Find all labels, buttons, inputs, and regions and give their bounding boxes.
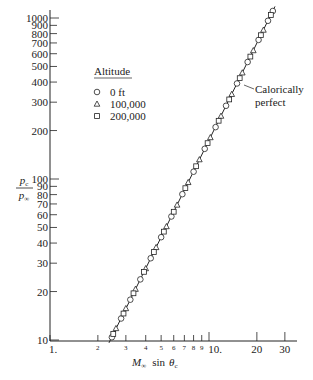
x-tick-label: 20 (251, 343, 263, 355)
square-marker (151, 250, 156, 255)
square-marker (121, 311, 126, 316)
legend-entry-label: 100,000 (110, 98, 146, 110)
square-marker (227, 97, 232, 102)
circle-marker (138, 277, 144, 283)
annotation-line-2: perfect (255, 96, 286, 108)
x-tick-label: 3 (124, 344, 128, 352)
circle-marker (234, 81, 240, 87)
circle-marker (148, 255, 154, 261)
triangle-marker (113, 325, 119, 330)
square-marker (194, 164, 199, 169)
triangle-marker (123, 305, 129, 310)
x-tick-label: 8 (192, 344, 196, 352)
circle-marker (128, 297, 134, 303)
y-tick-label: 400 (32, 76, 49, 88)
x-tick-label: 7 (183, 344, 187, 352)
y-axis-ticks: 1020304050607080901002003004005006007008… (26, 12, 59, 346)
legend-triangle-icon (94, 101, 100, 106)
square-marker (171, 209, 176, 214)
x-tick-label: 1. (49, 343, 58, 355)
legend: Altitude 0 ft100,000200,000 (94, 65, 146, 122)
legend-entry-label: 200,000 (110, 110, 146, 122)
circle-marker (202, 146, 208, 152)
triangle-marker (174, 202, 180, 207)
x-tick-label: 4 (144, 344, 148, 352)
chart: 1020304050607080901002003004005006007008… (0, 0, 313, 380)
y-tick-label: 500 (32, 60, 49, 72)
legend-circle-icon (94, 89, 100, 95)
square-marker (216, 118, 221, 123)
square-marker (268, 13, 273, 18)
x-axis-label: M∞sinθc (131, 356, 178, 370)
y-tick-label: 50 (37, 221, 49, 233)
square-marker (111, 332, 116, 337)
y-tick-label: 100 (32, 173, 49, 185)
triangle-marker (164, 223, 170, 228)
square-marker (205, 141, 210, 146)
triangle-marker (251, 48, 257, 53)
legend-square-icon (95, 114, 100, 119)
x-tick-label: 6 (172, 344, 176, 352)
x-label-text: M∞sinθc (131, 356, 178, 370)
triangle-marker (240, 70, 246, 75)
y-tick-label: 1000 (26, 12, 49, 24)
circle-marker (191, 169, 197, 175)
square-marker (183, 186, 188, 191)
y-tick-label: 60 (37, 209, 49, 221)
x-axis-ticks: 1.2345678910.2030 (49, 332, 291, 355)
square-marker (161, 229, 166, 234)
circle-marker (118, 316, 124, 322)
circle-marker (223, 103, 229, 109)
axes (50, 10, 297, 341)
triangle-marker (208, 135, 214, 140)
annotation-leader-line (244, 85, 254, 89)
circle-marker (180, 191, 186, 197)
circle-marker (245, 59, 251, 65)
x-tick-label: 30 (279, 343, 291, 355)
triangle-marker (197, 157, 203, 162)
triangle-marker (261, 27, 267, 32)
annotation-line-1: Calorically (255, 83, 304, 95)
y-tick-label: 300 (32, 96, 49, 108)
circle-marker (158, 234, 164, 240)
y-tick-label: 10 (37, 334, 49, 346)
square-marker (142, 269, 147, 274)
x-tick-label: 9 (200, 344, 204, 352)
y-tick-label: 200 (32, 125, 49, 137)
legend-entry-label: 0 ft (110, 86, 125, 98)
y-label-numerator: pc (19, 174, 29, 188)
x-tick-label: 5 (159, 344, 163, 352)
x-tick-label: 10. (208, 343, 222, 355)
square-marker (248, 54, 253, 59)
y-tick-label: 40 (37, 237, 49, 249)
legend-title: Altitude (94, 65, 130, 77)
triangle-marker (185, 179, 191, 184)
y-axis-label: pc p∞ (16, 174, 33, 203)
circle-marker (265, 18, 271, 24)
y-label-denominator: p∞ (18, 189, 30, 203)
square-marker (237, 76, 242, 81)
x-tick-label: 2 (96, 344, 100, 352)
y-tick-label: 600 (32, 48, 49, 60)
square-marker (258, 33, 263, 38)
circle-marker (213, 124, 219, 130)
y-tick-label: 20 (37, 286, 49, 298)
triangle-marker (229, 91, 235, 96)
square-marker (131, 291, 136, 296)
triangle-marker (218, 113, 224, 118)
triangle-marker (153, 244, 159, 249)
calorically-perfect-annotation: Calorically perfect (244, 83, 304, 108)
y-tick-label: 30 (37, 257, 49, 269)
data-points (109, 8, 276, 340)
